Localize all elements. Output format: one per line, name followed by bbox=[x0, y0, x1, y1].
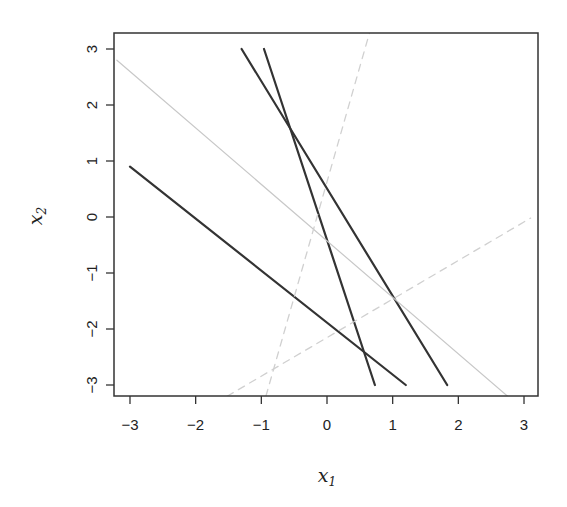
y-tick-label: 3 bbox=[83, 45, 100, 53]
y-tick-label: −3 bbox=[83, 376, 100, 393]
x-tick-label: −2 bbox=[187, 416, 204, 433]
x-tick-label: −1 bbox=[253, 416, 270, 433]
y-tick-label: 0 bbox=[83, 213, 100, 221]
x-tick-label: 0 bbox=[323, 416, 331, 433]
line-c bbox=[264, 49, 375, 385]
series-layer bbox=[117, 32, 531, 396]
x-tick-label: −3 bbox=[121, 416, 138, 433]
y-tick-label: −2 bbox=[83, 320, 100, 337]
line-b bbox=[242, 49, 448, 385]
gray-line bbox=[117, 60, 508, 396]
x-tick-label: 3 bbox=[520, 416, 528, 433]
x-axis: −3−2−10123 bbox=[121, 396, 528, 433]
y-tick-label: 2 bbox=[83, 101, 100, 109]
y-tick-label: 1 bbox=[83, 157, 100, 165]
y-axis-label: x2 bbox=[24, 207, 49, 225]
y-tick-label: −1 bbox=[83, 264, 100, 281]
chart: −3−2−10123 −3−2−10123 x1 x2 bbox=[0, 0, 567, 507]
x-tick-label: 1 bbox=[388, 416, 396, 433]
y-axis: −3−2−10123 bbox=[83, 45, 114, 394]
dashed-shallow bbox=[227, 218, 530, 396]
x-tick-label: 2 bbox=[454, 416, 462, 433]
plot-frame bbox=[114, 33, 538, 396]
dashed-steep bbox=[266, 32, 370, 396]
x-axis-label: x1 bbox=[318, 464, 336, 489]
